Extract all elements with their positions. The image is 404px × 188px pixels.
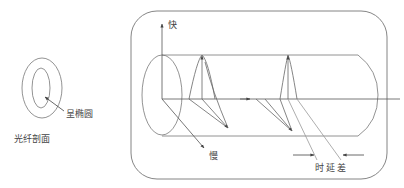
cross-section-caption: 光纤剖面 (14, 135, 50, 144)
slow-axis-label: 慢 (209, 152, 218, 161)
output-pulse-slow-b (265, 99, 292, 131)
delay-guide-right (297, 99, 341, 160)
slow-axis (162, 99, 204, 148)
fiber-cross-section (22, 58, 64, 118)
output-pulse-slow-a (256, 99, 292, 131)
input-pulse (189, 55, 228, 128)
outer-cladding-ellipse (22, 58, 62, 118)
diagram-canvas (0, 0, 404, 188)
cylinder-right-end (358, 55, 378, 136)
outer-frame (131, 11, 387, 179)
input-pulse-slow-right (205, 62, 228, 128)
fiber-cylinder (142, 55, 378, 136)
output-pulse-fast-component (280, 55, 297, 99)
time-delay-label: 时延差 (315, 164, 348, 173)
ellipse-shape-label: 呈椭圆 (66, 110, 93, 119)
delay-guide-left (288, 99, 317, 160)
output-pulse (256, 55, 341, 160)
axes (162, 24, 400, 148)
inner-core-ellipse (32, 68, 50, 108)
input-pulse-slow-mid (202, 99, 228, 128)
ellipse-pointer-arrow (45, 97, 64, 111)
fast-axis-label: 快 (168, 21, 177, 30)
